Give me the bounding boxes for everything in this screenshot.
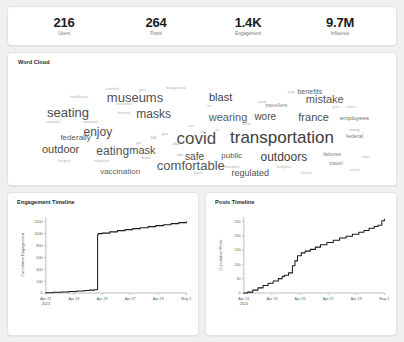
word-cloud-term: regulated xyxy=(232,168,270,177)
word-cloud-term: sit xyxy=(200,130,204,134)
word-cloud-term: employees xyxy=(340,115,369,121)
kpi-engagement-label: Engagement xyxy=(235,31,261,37)
word-cloud-term: travellers xyxy=(265,104,287,110)
kpi-engagement-value: 1.4K xyxy=(235,16,262,30)
svg-text:Apr 25: Apr 25 xyxy=(295,296,306,301)
word-cloud-term: france xyxy=(298,111,329,122)
kpi-posts-label: Posts xyxy=(150,31,162,37)
svg-text:250: 250 xyxy=(234,219,240,224)
dashboard-root: 216 Users 264 Posts 1.4K Engagement 9.7M… xyxy=(0,0,404,342)
word-cloud-term: national xyxy=(83,120,97,124)
kpi-strip: 216 Users 264 Posts 1.4K Engagement 9.7M… xyxy=(7,6,397,46)
word-cloud-title: Word Cloud xyxy=(18,59,388,65)
word-cloud-term: travel xyxy=(329,161,342,167)
svg-text:200: 200 xyxy=(234,233,240,238)
svg-text:800: 800 xyxy=(36,243,42,248)
word-cloud-term: sued xyxy=(257,100,266,104)
word-cloud-term: ads xyxy=(176,153,182,157)
svg-text:Apr 29: Apr 29 xyxy=(153,296,164,301)
kpi-users-label: Users xyxy=(58,31,70,37)
word-cloud-term: mask xyxy=(129,144,155,155)
svg-text:0: 0 xyxy=(40,290,42,295)
word-cloud-term: stock xyxy=(350,168,359,172)
word-cloud-term: eating xyxy=(96,145,129,157)
word-cloud-term: vaccination xyxy=(100,168,140,176)
engagement-timeline-card: Engagement Timeline 02004006008001000120… xyxy=(7,192,199,336)
word-cloud-term: gets xyxy=(139,88,147,92)
word-cloud-term: benefits xyxy=(298,88,323,95)
posts-timeline-card: Posts Timeline 050100150200250Apr 212023… xyxy=(205,192,397,336)
word-cloud-term: gun xyxy=(333,105,340,109)
word-cloud-term: trump xyxy=(349,128,359,132)
word-cloud-term: outdoors xyxy=(260,151,307,163)
word-cloud-term: air xyxy=(207,104,211,108)
svg-text:150: 150 xyxy=(234,247,240,252)
kpi-influence-value: 9.7M xyxy=(326,16,354,30)
word-cloud-term: budgets xyxy=(277,165,291,169)
word-cloud-term: mandate xyxy=(224,165,240,169)
svg-text:50: 50 xyxy=(236,276,240,281)
svg-text:May 1: May 1 xyxy=(181,296,191,301)
word-cloud-term: schools xyxy=(46,120,60,124)
word-cloud-term: now xyxy=(362,155,369,159)
engagement-timeline-plot: 020040060080010001200Apr 212023Apr 23Apr… xyxy=(14,205,192,319)
word-cloud-term: federal xyxy=(346,135,363,141)
word-cloud-term: disapproval xyxy=(166,86,186,90)
word-cloud-term: covid xyxy=(177,130,217,147)
word-cloud-canvas: transportationcovidcomfortablemuseumssea… xyxy=(16,66,388,181)
svg-text:100: 100 xyxy=(234,262,240,267)
svg-text:Apr 23: Apr 23 xyxy=(68,296,79,301)
word-cloud-term: essential xyxy=(116,102,132,106)
word-cloud-term: public xyxy=(221,152,242,160)
kpi-users-value: 216 xyxy=(53,16,74,30)
svg-text:Cumulative Posts: Cumulative Posts xyxy=(218,239,223,270)
word-cloud-term: gov xyxy=(162,132,168,136)
svg-text:2023: 2023 xyxy=(42,301,50,306)
kpi-engagement: 1.4K Engagement xyxy=(202,16,294,37)
kpi-posts-value: 264 xyxy=(145,16,166,30)
word-cloud-term: nt xyxy=(215,128,218,132)
svg-text:Apr 27: Apr 27 xyxy=(323,296,334,301)
kpi-influence-label: Influence xyxy=(331,31,350,37)
svg-text:May 1: May 1 xyxy=(379,296,389,301)
kpi-users: 216 Users xyxy=(18,16,110,37)
word-cloud-term: rules xyxy=(346,105,355,109)
svg-text:Apr 27: Apr 27 xyxy=(125,296,136,301)
word-cloud-term: bank xyxy=(142,156,151,160)
word-cloud-term: negative xyxy=(94,159,109,163)
posts-timeline-plot: 050100150200250Apr 212023Apr 23Apr 25Apr… xyxy=(212,205,390,319)
word-cloud-term: horror xyxy=(301,171,312,175)
svg-text:Cumulative Engagement: Cumulative Engagement xyxy=(20,232,25,277)
svg-text:200: 200 xyxy=(36,278,42,283)
word-cloud-term: formula xyxy=(117,111,130,115)
svg-text:600: 600 xyxy=(36,255,42,260)
word-cloud-term: seating xyxy=(47,106,89,119)
word-cloud-term: mistake xyxy=(306,94,344,105)
kpi-influence: 9.7M Influence xyxy=(294,16,386,37)
word-cloud-term: jury xyxy=(288,90,294,94)
word-cloud-term: back xyxy=(194,171,202,175)
word-cloud-term: safe xyxy=(185,152,204,162)
word-cloud-term: federally xyxy=(60,134,90,142)
kpi-posts: 264 Posts xyxy=(110,16,202,37)
svg-text:400: 400 xyxy=(36,267,42,272)
word-cloud-term: vax xyxy=(188,124,194,128)
svg-text:1200: 1200 xyxy=(34,219,42,224)
svg-text:1000: 1000 xyxy=(34,231,42,236)
svg-text:Apr 25: Apr 25 xyxy=(97,296,108,301)
word-cloud-term: transportation xyxy=(230,129,334,146)
word-cloud-card: Word Cloud transportationcovidcomfortabl… xyxy=(7,52,397,186)
svg-text:Apr 29: Apr 29 xyxy=(351,296,362,301)
word-cloud-term: masks xyxy=(136,108,171,120)
word-cloud-term: pass xyxy=(242,122,250,126)
word-cloud-term: out xyxy=(173,142,179,147)
word-cloud-term: candles xyxy=(106,87,120,91)
svg-text:2023: 2023 xyxy=(240,301,248,306)
word-cloud-term: failures xyxy=(323,152,341,158)
word-cloud-term: blast xyxy=(209,92,232,103)
svg-text:0: 0 xyxy=(238,290,240,295)
word-cloud-term: put xyxy=(136,141,142,145)
charts-row: Engagement Timeline 02004006008001000120… xyxy=(7,192,397,336)
word-cloud-term: longest xyxy=(58,159,71,163)
word-cloud-term: healthcare xyxy=(70,95,89,99)
